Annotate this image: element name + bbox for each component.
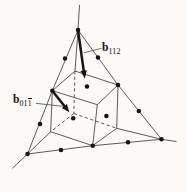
cube-edge — [93, 128, 117, 145]
atom-dot — [25, 152, 30, 157]
atom-dot — [76, 28, 81, 33]
label-leader-line — [36, 103, 63, 106]
atom-dot — [38, 122, 43, 127]
axis-line — [162, 139, 177, 141]
cube-edge — [117, 85, 118, 128]
b011bar-subscript: 01 — [19, 99, 27, 108]
cube-edge — [97, 85, 118, 105]
cube-hidden-edge — [51, 114, 74, 132]
atom-dot — [104, 114, 109, 119]
axis-line — [117, 128, 162, 139]
cube-hidden-edge — [74, 71, 75, 114]
atom-dot — [126, 140, 131, 145]
crystallography-figure: b112 b011 — [0, 0, 186, 192]
cube-edge — [75, 71, 118, 85]
atom-dot — [63, 56, 68, 61]
atom-dot — [50, 88, 55, 93]
atom-dot — [85, 84, 90, 89]
cube-edge — [51, 91, 53, 132]
atom-dot — [71, 116, 76, 121]
axis-line — [28, 132, 51, 154]
atom-dot — [90, 143, 95, 148]
b011bar-subscript-overbar: 1 — [28, 99, 32, 108]
axis-line — [12, 154, 27, 168]
label-b011bar: b011 — [13, 94, 32, 109]
atom-dot — [96, 55, 101, 60]
atom-dot — [159, 137, 164, 142]
b112-subscript: 112 — [108, 47, 120, 56]
cube-edge — [51, 132, 93, 146]
cube-edge — [93, 105, 98, 146]
cube-edge — [52, 71, 75, 91]
label-b112: b112 — [102, 42, 121, 57]
label-leader-line — [84, 48, 102, 53]
atom-dot — [137, 109, 142, 114]
atom-dot — [59, 148, 64, 153]
atom-dot — [116, 83, 121, 88]
axis-line — [78, 5, 80, 30]
